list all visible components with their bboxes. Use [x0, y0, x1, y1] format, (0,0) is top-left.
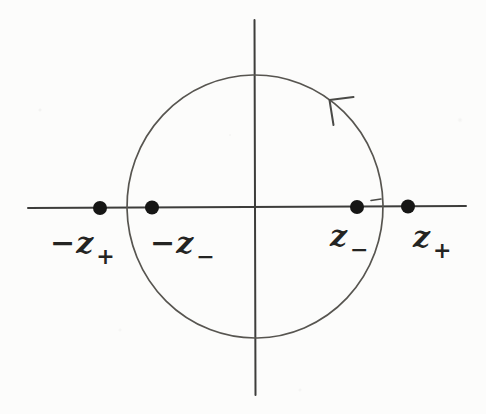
label-text: z [413, 219, 431, 254]
tick-mark [371, 199, 381, 201]
label-text: −z [50, 225, 94, 260]
label-text: −z [150, 225, 194, 260]
label-neg-z-plus: −z+ [50, 228, 116, 258]
label-neg-z-minus: −z− [150, 228, 216, 258]
pole-dot-neg-z-plus [93, 201, 107, 215]
hand-drawn-contour-diagram: −z+ −z− z− z+ [0, 0, 486, 414]
label-z-minus: z− [330, 221, 369, 251]
pole-dot-z-plus [401, 200, 415, 214]
label-subscript: + [96, 245, 115, 267]
label-subscript: + [433, 239, 452, 261]
pole-dot-z-minus [350, 200, 364, 214]
direction-arrow-icon [330, 97, 354, 125]
pole-dot-neg-z-minus [145, 201, 159, 215]
label-subscript: − [350, 238, 369, 260]
contour-figure-canvas [0, 0, 486, 414]
label-subscript: − [196, 245, 215, 267]
label-z-plus: z+ [413, 222, 452, 252]
label-text: z [330, 218, 348, 253]
